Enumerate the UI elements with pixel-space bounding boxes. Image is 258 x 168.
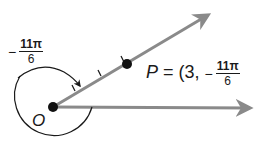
point-coords-prefix: = (3, (158, 62, 205, 82)
point-p (122, 59, 132, 69)
origin-label: O (32, 112, 45, 129)
point-angle-denominator: 6 (224, 74, 231, 87)
angle-fraction: 11π6 (19, 38, 43, 65)
angle-denominator: 6 (28, 52, 35, 65)
point-angle-fraction: 11π6 (216, 60, 240, 87)
angle-label: −11π6 (8, 38, 43, 65)
origin-point (48, 102, 58, 112)
point-coordinates-label: P = (3, −11π6 (146, 60, 240, 87)
point-name: P (146, 62, 158, 82)
polar-axis-ray (53, 107, 250, 108)
point-angle-numerator: 11π (216, 60, 240, 74)
point-angle-sign: − (205, 66, 213, 82)
angle-sign: − (8, 44, 16, 60)
angle-numerator: 11π (19, 38, 43, 52)
rotation-arrow-icon (18, 67, 80, 86)
